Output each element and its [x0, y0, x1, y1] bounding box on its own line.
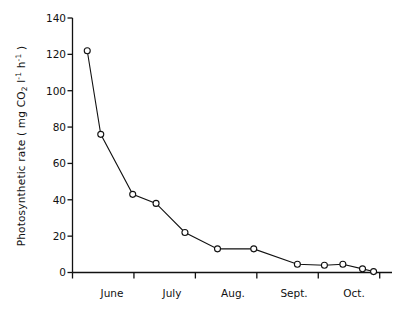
data-point [371, 269, 377, 275]
data-point [360, 266, 366, 272]
data-point [84, 48, 90, 54]
chart-figure: Photosynthetic rate ( mg CO2 l-1 h-1 ) 1… [0, 0, 407, 314]
data-point [130, 191, 136, 197]
data-point [98, 131, 104, 137]
data-point [321, 262, 327, 268]
data-point [182, 230, 188, 236]
y-axis [68, 18, 73, 273]
data-point [340, 261, 346, 267]
data-point [153, 200, 159, 206]
data-line [87, 51, 373, 272]
data-point [251, 246, 257, 252]
data-point [294, 261, 300, 267]
plot-area [0, 0, 407, 314]
data-markers [84, 48, 376, 275]
data-point [215, 246, 221, 252]
x-axis [73, 273, 393, 279]
